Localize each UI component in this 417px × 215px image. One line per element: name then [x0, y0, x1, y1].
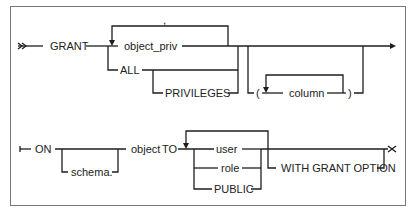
keyword-privileges: PRIVILEGES	[165, 87, 230, 99]
close-paren: )	[348, 87, 352, 99]
object-label: object	[131, 143, 160, 155]
keyword-to: TO	[162, 143, 178, 155]
keyword-on: ON	[35, 143, 52, 155]
grantee-role: role	[221, 162, 239, 174]
loop-separator-comma: ,	[163, 14, 166, 26]
grantee-user: user	[216, 143, 238, 155]
grant-syntax-diagram: GRANT , object_priv ALL PRIVILEGES (	[0, 0, 417, 215]
schema-label: schema.	[71, 166, 113, 178]
keyword-all: ALL	[120, 64, 140, 76]
open-paren: (	[256, 87, 260, 99]
grantee-public: PUBLIC	[214, 183, 254, 195]
column-label: column	[289, 87, 324, 99]
keyword-grant: GRANT	[50, 40, 89, 52]
diagram-frame	[11, 7, 406, 206]
object-priv-label: object_priv	[124, 40, 178, 52]
